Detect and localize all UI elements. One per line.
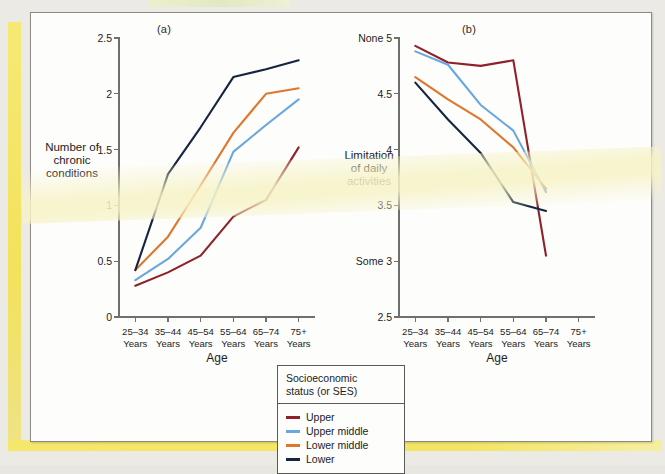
x-tick-mark	[233, 316, 234, 322]
y-tick-label: None 5	[358, 32, 392, 44]
legend-item-upper-middle[interactable]: Upper middle	[286, 425, 397, 437]
x-tick-label: 35–44Years	[435, 326, 461, 349]
legend-swatch-icon	[286, 458, 300, 461]
y-tick-label: 2	[106, 88, 112, 100]
y-tick-mark	[114, 149, 120, 150]
figure-frame: (a) Number ofchronicconditions Age 00.51…	[30, 12, 652, 442]
y-tick-label: Some 3	[356, 255, 392, 267]
x-tick-mark	[578, 316, 579, 322]
y-tick-mark	[114, 261, 120, 262]
legend-item-upper[interactable]: Upper	[286, 411, 397, 423]
panel-b-plot-area: Age 2.5Some 33.544.5None 525–34Years35–4…	[399, 38, 595, 316]
panel-b-y-axis-title-line-1: of daily	[334, 162, 404, 175]
panel-a-label: (a)	[59, 23, 269, 35]
legend-swatch-icon	[286, 430, 300, 433]
x-tick-label: 65–74Years	[533, 326, 559, 349]
panel-a-series-lines	[119, 38, 315, 317]
legend-item-label: Upper	[306, 411, 335, 423]
panel-b: (b) Limitationof dailyactivities Age 2.5…	[336, 13, 646, 353]
panel-a-x-axis-title: Age	[119, 351, 315, 365]
series-line-lower-middle	[135, 88, 298, 270]
x-tick-label: 25–34Years	[402, 326, 428, 349]
x-tick-mark	[265, 316, 266, 322]
y-tick-mark	[114, 37, 120, 38]
series-line-lower	[415, 83, 546, 211]
x-tick-mark	[298, 316, 299, 322]
series-line-upper	[415, 46, 546, 256]
x-tick-mark	[415, 316, 416, 322]
y-tick-label: 2.5	[377, 311, 392, 323]
legend-item-lower[interactable]: Lower	[286, 453, 397, 465]
x-tick-label: 75+Years	[287, 326, 311, 349]
legend-item-label: Lower middle	[306, 439, 368, 451]
legend-swatch-icon	[286, 444, 300, 447]
y-tick-mark	[114, 316, 120, 317]
panel-b-label: (b)	[364, 23, 574, 35]
y-tick-mark	[394, 37, 400, 38]
y-tick-label: 2.5	[97, 32, 112, 44]
y-tick-label: 3.5	[377, 199, 392, 211]
x-tick-label: 75+Years	[567, 326, 591, 349]
y-tick-mark	[394, 261, 400, 262]
x-tick-label: 45–54Years	[467, 326, 493, 349]
panel-a-y-axis-title-line-1: chronic	[33, 154, 111, 167]
y-tick-label: 1	[106, 199, 112, 211]
x-tick-label: 35–44Years	[155, 326, 181, 349]
legend-title-line-0: Socioeconomic	[286, 372, 397, 385]
panel-b-x-axis-title: Age	[399, 351, 595, 365]
panel-a-y-axis-title-line-2: conditions	[33, 167, 111, 180]
y-tick-label: 4	[386, 144, 392, 156]
x-tick-mark	[200, 316, 201, 322]
x-tick-label: 45–54Years	[187, 326, 213, 349]
y-tick-mark	[394, 316, 400, 317]
y-tick-mark	[114, 93, 120, 94]
x-tick-label: 65–74Years	[253, 326, 279, 349]
panel-a: (a) Number ofchronicconditions Age 00.51…	[31, 13, 341, 353]
y-tick-label: 4.5	[377, 88, 392, 100]
y-tick-mark	[114, 205, 120, 206]
highlighter-mark-top	[150, 0, 290, 7]
y-tick-mark	[394, 93, 400, 94]
legend-title-line-1: status (or SES)	[286, 385, 397, 398]
x-tick-label: 55–64Years	[220, 326, 246, 349]
x-tick-mark	[480, 316, 481, 322]
x-tick-mark	[545, 316, 546, 322]
x-tick-mark	[135, 316, 136, 322]
y-tick-mark	[394, 149, 400, 150]
legend-title: Socioeconomicstatus (or SES)	[278, 366, 404, 404]
legend-swatch-icon	[286, 416, 300, 419]
panel-b-y-axis-title-line-2: activities	[334, 175, 404, 188]
panel-b-y-axis-title: Limitationof dailyactivities	[334, 149, 404, 188]
panel-b-y-axis-title-line-0: Limitation	[334, 149, 404, 162]
x-tick-mark	[447, 316, 448, 322]
panel-b-series-lines	[399, 38, 595, 317]
y-tick-label: 1.5	[97, 144, 112, 156]
y-tick-label: 0.5	[97, 255, 112, 267]
legend-items: UpperUpper middleLower middleLower	[278, 404, 404, 473]
y-tick-mark	[394, 205, 400, 206]
legend-item-label: Lower	[306, 453, 335, 465]
x-tick-mark	[513, 316, 514, 322]
series-line-upper-middle	[415, 51, 546, 192]
y-tick-label: 0	[106, 311, 112, 323]
panel-a-plot-area: Age 00.511.522.525–34Years35–44Years45–5…	[119, 38, 315, 316]
x-tick-mark	[167, 316, 168, 322]
legend: Socioeconomicstatus (or SES) UpperUpper …	[277, 365, 405, 474]
series-line-upper-middle	[135, 99, 298, 280]
legend-item-label: Upper middle	[306, 425, 368, 437]
x-tick-label: 55–64Years	[500, 326, 526, 349]
x-tick-label: 25–34Years	[122, 326, 148, 349]
highlighter-mark-left	[8, 22, 21, 440]
legend-item-lower-middle[interactable]: Lower middle	[286, 439, 397, 451]
